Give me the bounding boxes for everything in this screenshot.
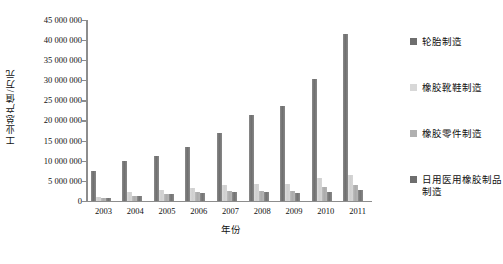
legend-swatch-icon (410, 130, 417, 137)
plot-area (86, 20, 372, 202)
legend-item[interactable]: 轮胎制造 (410, 36, 502, 48)
x-tick-label: 2004 (119, 206, 151, 216)
x-tick-label: 2006 (183, 206, 215, 216)
legend-item[interactable]: 橡胶靴鞋制造 (410, 82, 502, 94)
y-tick-label: 5 000 000 (48, 176, 82, 185)
x-tick-label: 2003 (88, 206, 120, 216)
y-tick-label: 10 000 000 (44, 156, 82, 165)
bar (358, 190, 363, 200)
y-tick-mark (82, 40, 86, 41)
x-tick-label: 2010 (310, 206, 342, 216)
y-axis-title-text: 工业总产值/万元 (4, 68, 18, 145)
bars-layer (88, 20, 373, 201)
bar (200, 193, 205, 201)
y-tick-label: 45 000 000 (44, 16, 82, 25)
y-tick-label: 15 000 000 (44, 136, 82, 145)
bar-group-2003 (88, 20, 120, 201)
y-tick-mark (82, 120, 86, 121)
bar-group-2004 (119, 20, 151, 201)
x-axis-title: 年份 (88, 222, 374, 236)
y-tick-mark (82, 141, 86, 142)
legend-label: 橡胶零件制造 (422, 128, 482, 140)
y-tick-mark (82, 60, 86, 61)
bar (137, 196, 142, 201)
bar-chart-figure: 工业总产值/万元 45 000 00040 000 00035 000 0003… (0, 0, 503, 264)
bar-group-2005 (151, 20, 183, 201)
y-tick-label: 35 000 000 (44, 56, 82, 65)
bar (169, 194, 174, 200)
legend-label: 轮胎制造 (422, 36, 462, 48)
y-tick-mark (82, 20, 86, 21)
y-tick-mark (82, 181, 86, 182)
bar (106, 198, 111, 200)
bar (295, 193, 300, 201)
legend-item[interactable]: 日用医用橡胶制品制造 (410, 174, 502, 198)
legend-label: 日用医用橡胶制品制造 (422, 174, 502, 198)
legend-swatch-icon (410, 84, 417, 91)
x-axis-tick-labels: 200320042005200620072008200920102011 (88, 206, 374, 216)
x-tick-label: 2009 (278, 206, 310, 216)
bar-group-2007 (214, 20, 246, 201)
bar-group-2009 (277, 20, 309, 201)
bar-group-2008 (246, 20, 278, 201)
x-tick-label: 2007 (215, 206, 247, 216)
y-tick-mark (82, 201, 86, 202)
x-tick-label: 2005 (151, 206, 183, 216)
x-tick-label: 2008 (246, 206, 278, 216)
legend-swatch-icon (410, 38, 417, 45)
bar (232, 192, 237, 200)
y-tick-label: 20 000 000 (44, 116, 82, 125)
bar-group-2011 (340, 20, 372, 201)
x-tick-label: 2011 (342, 206, 374, 216)
bar-group-2010 (309, 20, 341, 201)
y-tick-label: 30 000 000 (44, 76, 82, 85)
bar (264, 192, 269, 200)
y-tick-label: 40 000 000 (44, 36, 82, 45)
y-tick-mark (82, 100, 86, 101)
bar-group-2006 (182, 20, 214, 201)
legend-swatch-icon (410, 176, 417, 183)
y-axis-tick-labels: 45 000 00040 000 00035 000 00030 000 000… (18, 15, 84, 209)
y-tick-mark (82, 161, 86, 162)
legend-item[interactable]: 橡胶零件制造 (410, 128, 502, 140)
chart-legend: 轮胎制造橡胶靴鞋制造橡胶零件制造日用医用橡胶制品制造 (410, 36, 502, 232)
y-tick-label: 25 000 000 (44, 96, 82, 105)
bar (327, 192, 332, 201)
y-tick-mark (82, 80, 86, 81)
legend-label: 橡胶靴鞋制造 (422, 82, 482, 94)
x-axis-line (86, 201, 372, 202)
